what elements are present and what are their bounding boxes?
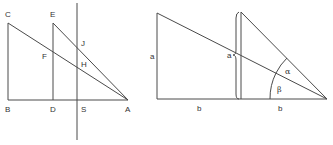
label-a-brace: a (227, 51, 232, 60)
label-A: A (125, 105, 131, 114)
left-figure: C E F J H B D S A (5, 3, 131, 140)
hypotenuse-EA (53, 23, 128, 100)
short-hypotenuse (241, 12, 327, 99)
label-F: F (42, 52, 47, 61)
label-a-left: a (150, 52, 155, 61)
label-b-right: b (278, 104, 283, 113)
label-S: S (81, 105, 86, 114)
label-D: D (50, 105, 56, 114)
geometry-diagram: C E F J H B D S A a a α β b b (0, 0, 333, 145)
right-figure: a a α β b b (150, 12, 327, 113)
label-B: B (5, 105, 10, 114)
label-E: E (50, 10, 55, 19)
label-alpha: α (285, 67, 291, 76)
label-b-left: b (197, 104, 202, 113)
label-C: C (5, 10, 11, 19)
long-hypotenuse (157, 13, 327, 99)
curly-brace (233, 12, 239, 99)
hypotenuse-CA (8, 23, 128, 100)
label-J: J (81, 39, 85, 48)
arc-beta (270, 73, 276, 99)
label-H: H (81, 60, 87, 69)
label-beta: β (277, 85, 282, 94)
